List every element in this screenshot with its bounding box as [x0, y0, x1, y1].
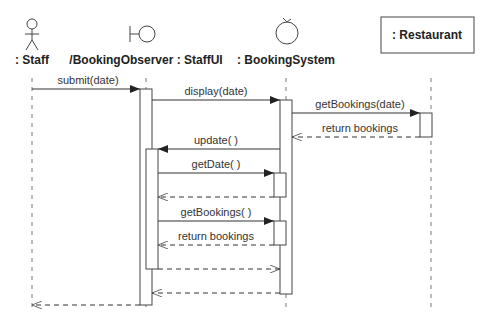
label-getdate: getDate( ) [192, 158, 241, 170]
label-update: update( ) [194, 134, 238, 146]
label-submit: submit(date) [57, 74, 118, 86]
boundary-icon [130, 26, 155, 42]
label-getbookings: getBookings( ) [181, 206, 252, 218]
label-getbookings-date: getBookings(date) [315, 98, 404, 110]
participant-staff: : Staff [15, 53, 50, 67]
participant-bookingsystem: : BookingSystem [237, 53, 335, 67]
control-icon [276, 18, 298, 44]
label-return-bookings-1: return bookings [322, 122, 398, 134]
sequence-diagram: : Staff /BookingObserver : StaffUI : Boo… [0, 0, 496, 329]
label-display: display(date) [185, 85, 248, 97]
staff-actor-icon [25, 19, 39, 50]
participant-restaurant: : Restaurant [392, 28, 462, 42]
label-return-bookings-2: return bookings [178, 230, 254, 242]
participant-staffui: /BookingObserver : StaffUI [69, 53, 222, 67]
